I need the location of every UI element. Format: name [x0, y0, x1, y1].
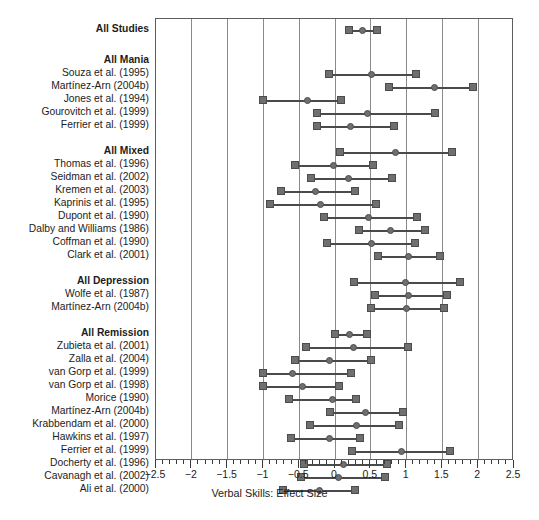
- study-label: Thomas et al. (1996): [54, 159, 149, 170]
- ci-lower-marker: [287, 434, 295, 442]
- ci-lower-marker: [326, 408, 334, 416]
- study-label: Ferrier et al. (1999): [61, 445, 149, 456]
- minor-tick: [348, 460, 349, 464]
- minor-tick: [162, 460, 163, 464]
- ci-upper-marker: [367, 356, 375, 364]
- ci-upper-marker: [373, 26, 381, 34]
- minor-tick: [176, 460, 177, 464]
- study-row: [156, 173, 512, 184]
- ci-lower-marker: [345, 26, 353, 34]
- study-label: Hawkins et al. (1997): [52, 432, 149, 443]
- ci-upper-marker: [440, 304, 448, 312]
- study-label: Dalby and Williams (1986): [29, 224, 149, 235]
- effect-size-point: [312, 188, 319, 195]
- ci-upper-marker: [337, 96, 345, 104]
- ci-upper-marker: [421, 226, 429, 234]
- effect-size-point: [345, 175, 352, 182]
- major-tick: [477, 460, 478, 468]
- minor-tick: [183, 460, 184, 464]
- minor-tick: [305, 460, 306, 464]
- effect-size-point: [405, 253, 412, 260]
- effect-size-point: [326, 435, 333, 442]
- minor-tick: [434, 460, 435, 464]
- ci-upper-marker: [404, 343, 412, 351]
- study-row: [156, 446, 512, 457]
- minor-tick: [212, 460, 213, 464]
- study-row: [156, 121, 512, 132]
- x-tick-label: 2: [474, 468, 480, 480]
- ci-upper-marker: [335, 382, 343, 390]
- minor-tick: [448, 460, 449, 464]
- minor-tick: [355, 460, 356, 464]
- effect-size-point: [329, 396, 336, 403]
- minor-tick: [319, 460, 320, 464]
- effect-size-point: [350, 344, 357, 351]
- ci-lower-marker: [348, 447, 356, 455]
- minor-tick: [326, 460, 327, 464]
- ci-upper-marker: [411, 239, 419, 247]
- study-row: [156, 342, 512, 353]
- major-tick: [405, 460, 406, 468]
- study-label: Krabbendam et al. (2000): [32, 419, 149, 430]
- ci-lower-marker: [266, 200, 274, 208]
- minor-tick: [248, 460, 249, 464]
- minor-tick: [484, 460, 485, 464]
- ci-upper-marker: [347, 369, 355, 377]
- minor-tick: [498, 460, 499, 464]
- minor-tick: [240, 460, 241, 464]
- forest-plot-figure: All StudiesAll ManiaSouza et al. (1995)M…: [0, 0, 539, 520]
- major-tick: [334, 460, 335, 468]
- ci-upper-marker: [356, 434, 364, 442]
- study-row: [156, 25, 512, 36]
- ci-lower-marker: [302, 343, 310, 351]
- major-tick: [190, 460, 191, 468]
- study-label: Morice (1990): [85, 393, 149, 404]
- x-tick-label: −2: [185, 468, 197, 480]
- study-row: [156, 394, 512, 405]
- ci-lower-marker: [350, 278, 358, 286]
- ci-lower-marker: [313, 109, 321, 117]
- study-row: [156, 251, 512, 262]
- group-label: All Mixed: [104, 146, 149, 157]
- ci-upper-marker: [436, 252, 444, 260]
- ci-lower-marker: [313, 122, 321, 130]
- minor-tick: [505, 460, 506, 464]
- minor-tick: [341, 460, 342, 464]
- study-row: [156, 355, 512, 366]
- ci-upper-marker: [469, 83, 477, 91]
- ci-upper-marker: [390, 122, 398, 130]
- study-label: Kaprinis et al. (1995): [54, 198, 149, 209]
- x-tick-label: 0.5: [362, 468, 377, 480]
- major-tick: [369, 460, 370, 468]
- study-label-column: All StudiesAll ManiaSouza et al. (1995)M…: [0, 0, 152, 460]
- study-row: [156, 303, 512, 314]
- study-label: Ferrier et al. (1999): [61, 120, 149, 131]
- minor-tick: [391, 460, 392, 464]
- x-tick-label: 0: [331, 468, 337, 480]
- study-label: Zalla et al. (2004): [69, 354, 149, 365]
- minor-tick: [384, 460, 385, 464]
- study-label: Coffman et al. (1990): [52, 237, 149, 248]
- effect-size-point: [330, 162, 337, 169]
- ci-upper-marker: [395, 421, 403, 429]
- ci-lower-marker: [259, 382, 267, 390]
- minor-tick: [455, 460, 456, 464]
- effect-size-point: [387, 227, 394, 234]
- ci-upper-marker: [388, 174, 396, 182]
- study-row: [156, 290, 512, 301]
- ci-upper-marker: [399, 408, 407, 416]
- study-label: van Gorp et al. (1998): [49, 380, 149, 391]
- effect-size-point: [304, 97, 311, 104]
- effect-size-point: [347, 123, 354, 130]
- ci-lower-marker: [374, 252, 382, 260]
- major-tick: [513, 460, 514, 468]
- minor-tick: [205, 460, 206, 464]
- ci-lower-marker: [385, 83, 393, 91]
- confidence-interval-line: [263, 373, 350, 375]
- ci-lower-marker: [323, 239, 331, 247]
- study-row: [156, 420, 512, 431]
- ci-lower-marker: [259, 369, 267, 377]
- x-tick-label: −2.5: [145, 468, 166, 480]
- study-row: [156, 407, 512, 418]
- x-tick-label: −1.5: [216, 468, 237, 480]
